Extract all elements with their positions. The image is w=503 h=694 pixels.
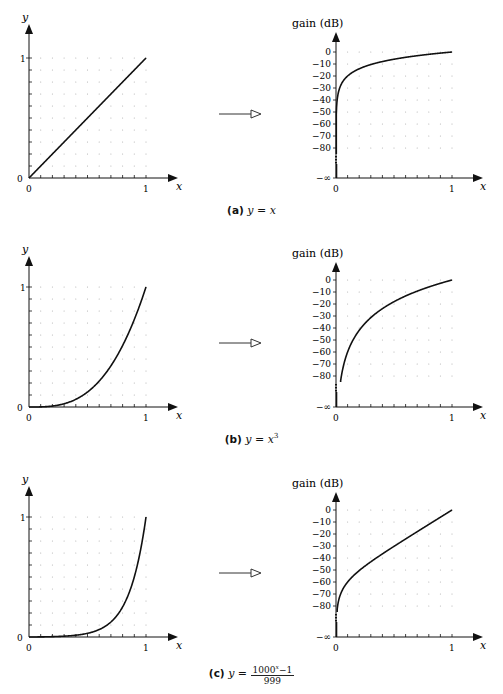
y-tick-label: −70 (312, 131, 331, 141)
x-tick-0: 0 (333, 413, 339, 423)
panel-b-gain-plot: 0−10−20−30−40−50−60−70−80−∞ gain (dB) 0 … (290, 230, 503, 430)
caption-equation: y = (228, 667, 247, 680)
y-tick-label: −40 (312, 553, 331, 563)
y-axis-label: gain (dB) (292, 477, 343, 490)
panel-b-arrow-icon (215, 337, 265, 349)
y-axis-label: gain (dB) (292, 17, 343, 30)
y-tick-label: −20 (312, 299, 331, 309)
panel-a-arrow-icon (215, 108, 265, 120)
panel-a-gain-plot: 0−10−20−30−40−50−60−70−80−∞ gain (dB) 0 … (290, 0, 503, 200)
y-tick-label: 0 (325, 505, 331, 515)
caption-fraction: 1000x−1 999 (251, 662, 295, 686)
y-tick-label: −10 (312, 287, 331, 297)
y-tick-label: −10 (312, 517, 331, 527)
y-tick-label: −40 (312, 95, 331, 105)
x-tick-1: 1 (143, 184, 149, 194)
caption-label: (c) (209, 667, 225, 679)
y-tick-label: −30 (312, 311, 331, 321)
y-tick-label: −40 (312, 323, 331, 333)
y-tick-label: −50 (312, 565, 331, 575)
y-axis-label: gain (dB) (292, 247, 343, 260)
x-tick-0: 0 (333, 184, 339, 194)
y-tick-label: −80 (312, 601, 331, 611)
y-tick-label: 0 (325, 47, 331, 57)
y-tick-0: 0 (17, 633, 23, 643)
y-tick-label: −∞ (316, 402, 331, 412)
y-tick-label: −∞ (316, 173, 331, 183)
y-tick-0: 0 (17, 174, 23, 184)
y-tick-1: 1 (20, 283, 26, 293)
y-axis-label: y (21, 243, 29, 256)
x-tick-0: 0 (333, 643, 339, 653)
x-tick-1: 1 (143, 643, 149, 653)
caption-exponent: 3 (274, 432, 278, 440)
y-tick-label: −10 (312, 59, 331, 69)
x-tick-1: 1 (143, 413, 149, 423)
panel-a-linear-plot: y 1 0 0 1 x (0, 0, 200, 200)
x-tick-1: 1 (449, 184, 455, 194)
panel-c-linear-plot: y 1 0 0 1 x (0, 460, 200, 660)
y-tick-label: −30 (312, 541, 331, 551)
x-axis-label: x (480, 180, 487, 193)
y-tick-label: −50 (312, 335, 331, 345)
y-tick-label: −60 (312, 577, 331, 587)
y-tick-label: −80 (312, 143, 331, 153)
caption-label: (b) (225, 433, 242, 445)
x-tick-1: 1 (449, 413, 455, 423)
y-tick-label: −70 (312, 589, 331, 599)
y-tick-label: −70 (312, 359, 331, 369)
caption-equation: y = x (247, 204, 276, 217)
y-tick-label: −20 (312, 71, 331, 81)
y-tick-label: −∞ (316, 632, 331, 642)
x-tick-0: 0 (26, 643, 32, 653)
panel-c-arrow-icon (215, 567, 265, 579)
y-tick-1: 1 (20, 54, 26, 64)
panel-b-linear-plot: y 1 0 0 1 x (0, 230, 200, 430)
x-axis-label: x (480, 639, 487, 652)
caption-label: (a) (227, 204, 244, 216)
caption-equation: y = x (245, 433, 274, 446)
panel-c-gain-plot: 0−10−20−30−40−50−60−70−80−∞ gain (dB) 0 … (290, 460, 503, 660)
y-tick-label: 0 (325, 275, 331, 285)
x-tick-0: 0 (26, 184, 32, 194)
x-tick-0: 0 (26, 413, 32, 423)
y-axis-label: y (21, 11, 29, 24)
x-axis-label: x (480, 409, 487, 422)
y-tick-label: −80 (312, 371, 331, 381)
y-tick-label: −50 (312, 107, 331, 117)
x-axis-label: x (176, 180, 183, 193)
caption-c: (c) y = 1000x−1 999 (0, 662, 503, 686)
x-axis-label: x (176, 639, 183, 652)
y-tick-label: −60 (312, 119, 331, 129)
y-tick-label: −60 (312, 347, 331, 357)
x-tick-1: 1 (449, 643, 455, 653)
y-tick-0: 0 (17, 403, 23, 413)
x-axis-label: x (176, 409, 183, 422)
y-tick-1: 1 (20, 513, 26, 523)
y-axis-label: y (21, 473, 29, 486)
y-tick-label: −30 (312, 83, 331, 93)
caption-b: (b) y = x3 (0, 432, 503, 446)
caption-a: (a) y = x (0, 204, 503, 217)
y-tick-label: −20 (312, 529, 331, 539)
